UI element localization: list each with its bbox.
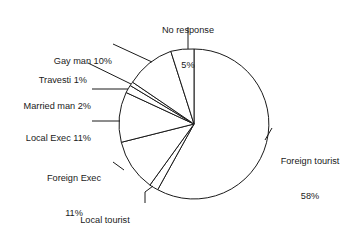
slice-label-local-exec-text: Local Exec 11% [2,133,91,145]
leader-line-local-tourist [145,186,153,203]
slice-label-foreign-tourist: Foreign tourist 58% [272,133,348,225]
leader-line-foreign-exec [113,162,124,170]
slice-label-foreign-exec-name: Foreign Exec [36,173,112,185]
slice-label-local-tourist-name: Local tourist [68,215,142,226]
pie-chart-figure: No response 5% Gay man 10% Travesti 1% M… [0,0,350,226]
slice-label-local-tourist: Local tourist 2% [68,192,142,226]
slice-label-foreign-tourist-name: Foreign tourist [272,156,348,168]
slice-label-no-response-name: No response [146,25,230,37]
slice-label-foreign-tourist-value: 58% [272,191,348,203]
slice-label-no-response-value: 5% [146,60,230,72]
slice-label-no-response: No response 5% [146,2,230,94]
